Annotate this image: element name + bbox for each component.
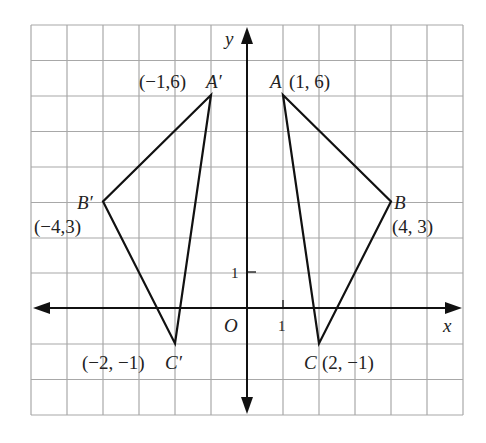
x-tick-label: 1 (278, 318, 286, 334)
axes (46, 40, 448, 400)
point-b-prime-coords: (−4,3) (34, 216, 81, 238)
y-axis-arrow-up-icon (241, 27, 253, 44)
y-tick-label: 1 (231, 265, 239, 281)
x-axis-arrow-left-icon (33, 302, 50, 314)
point-a-prime-coords: (−1,6) (139, 71, 186, 93)
point-b-label: B (394, 192, 406, 213)
y-axis-label: y (223, 28, 234, 49)
point-c-coords: (2, −1) (322, 352, 374, 374)
point-a-label: A (268, 71, 282, 92)
origin-label: O (224, 315, 238, 336)
point-b-prime-label: B′ (77, 192, 94, 213)
triangle-abc (283, 95, 391, 344)
point-c-label: C (304, 352, 317, 373)
point-a-coords: (1, 6) (289, 71, 330, 93)
point-c-prime-coords: (−2, −1) (82, 352, 145, 374)
point-a-prime-label: A′ (204, 71, 223, 92)
point-c-prime-label: C′ (165, 352, 183, 373)
coordinate-plane: y x O 1 1 (−1,6) A′ A (1, 6) B′ (−4,3) B… (0, 0, 486, 443)
triangle-a-prime-b-prime-c-prime (103, 95, 211, 344)
x-axis-label: x (442, 315, 452, 336)
x-axis-arrow-right-icon (445, 302, 462, 314)
point-b-coords: (4, 3) (392, 216, 433, 238)
y-axis-arrow-down-icon (241, 397, 253, 414)
